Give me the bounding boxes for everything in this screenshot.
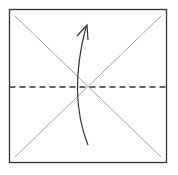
origami-diagram	[0, 0, 178, 175]
